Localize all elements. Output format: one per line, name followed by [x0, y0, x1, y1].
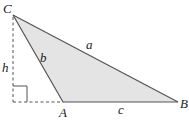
side-label-b: b — [40, 50, 47, 65]
side-label-a: a — [86, 37, 93, 52]
vertex-label-a: A — [58, 105, 67, 120]
vertex-label-c: C — [3, 1, 12, 16]
altitude-label-h: h — [2, 60, 9, 75]
vertex-label-b: B — [180, 96, 188, 111]
side-label-c: c — [118, 102, 124, 117]
triangle-diagram: C A B a b c h — [0, 0, 189, 120]
right-angle-marker — [13, 86, 27, 102]
